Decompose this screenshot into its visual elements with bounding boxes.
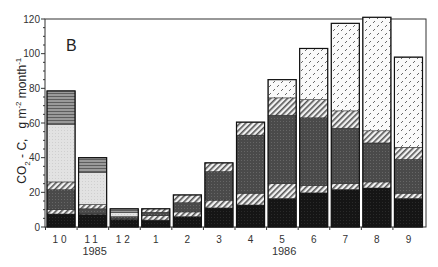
x-tick-label: 11: [84, 234, 100, 245]
bar-segment: [79, 209, 107, 214]
bar-segment: [300, 100, 328, 118]
bar-7: [331, 23, 359, 227]
x-tick-label: 10: [52, 234, 69, 245]
bar-segment: [79, 158, 107, 173]
bar-segment: [268, 80, 296, 98]
bar-segment: [394, 57, 422, 147]
bar-segment: [47, 210, 75, 214]
bar-segment: [205, 172, 233, 201]
bar-segment: [205, 163, 233, 172]
bar-segment: [47, 91, 75, 125]
y-tick-label: 120: [23, 14, 40, 25]
bar-2: [173, 195, 201, 227]
bar-3: [205, 163, 233, 227]
bar-4: [237, 122, 265, 227]
bar-segment: [300, 185, 328, 192]
bar-6: [300, 48, 328, 227]
bar-segment: [47, 214, 75, 227]
bar-segment: [268, 115, 296, 183]
bar-segment: [300, 118, 328, 186]
bar-segment: [394, 198, 422, 227]
bar-segment: [363, 17, 391, 131]
bar-segment: [110, 219, 138, 227]
bar-segment: [268, 184, 296, 199]
bar-segment: [300, 48, 328, 99]
bar-8: [363, 17, 391, 227]
y-axis-label: CO2 - C, g m-2 month-1: [14, 36, 31, 206]
bar-9: [394, 57, 422, 227]
panel-label: B: [66, 37, 77, 54]
bar-segment: [47, 190, 75, 210]
bar-segment: [173, 195, 201, 203]
y-tick-label: 0: [34, 222, 40, 233]
bar-segment: [110, 212, 138, 216]
bar-segment: [237, 193, 265, 205]
bar-segment: [47, 182, 75, 190]
x-tick-label: 5: [279, 234, 285, 245]
bar-segment: [237, 122, 265, 135]
bar-segment: [237, 205, 265, 227]
bar-segment: [363, 143, 391, 182]
bar-segment: [79, 172, 107, 204]
bar-segment: [47, 125, 75, 182]
x-tick-label: 3: [216, 234, 222, 245]
bar-segment: [363, 131, 391, 143]
bar-segment: [142, 220, 170, 227]
bar-1: [142, 209, 170, 227]
x-tick-label: 12: [116, 234, 133, 245]
bar-segment: [363, 188, 391, 227]
x-tick-label: 4: [248, 234, 254, 245]
x-tick-label: 6: [311, 234, 317, 245]
bar-segment: [394, 147, 422, 159]
bar-segment: [110, 217, 138, 219]
bar-segment: [205, 208, 233, 227]
bar-10: [47, 91, 75, 227]
bar-segment: [79, 215, 107, 227]
x-axis: 10111212345678919851986: [46, 227, 412, 257]
bar-segment: [331, 128, 359, 183]
bar-segment: [331, 189, 359, 227]
x-tick-label: 8: [374, 234, 380, 245]
year-label: 1986: [272, 245, 296, 257]
bar-segment: [142, 216, 170, 220]
bar-segment: [237, 135, 265, 193]
bar-segment: [363, 182, 391, 188]
bar-segment: [331, 111, 359, 128]
bar-segment: [268, 98, 296, 115]
bar-segment: [79, 204, 107, 208]
x-tick-label: 7: [343, 234, 349, 245]
bar-12: [110, 209, 138, 227]
bar-5: [268, 80, 296, 227]
year-label: 1985: [82, 245, 106, 257]
bar-segment: [173, 217, 201, 227]
bar-segment: [300, 193, 328, 227]
stacked-bar-chart: 020406080100120 10111212345678919851986 …: [0, 0, 438, 267]
bars: [47, 17, 423, 227]
bar-segment: [268, 198, 296, 227]
x-tick-label: 1: [153, 234, 159, 245]
bar-segment: [331, 184, 359, 190]
bar-segment: [394, 193, 422, 198]
x-tick-label: 2: [185, 234, 191, 245]
bar-segment: [205, 200, 233, 208]
bar-11: [79, 158, 107, 227]
bar-segment: [173, 212, 201, 217]
bar-segment: [173, 203, 201, 212]
bar-segment: [394, 159, 422, 193]
bar-segment: [142, 212, 170, 215]
bar-segment: [331, 23, 359, 111]
x-tick-label: 9: [406, 234, 412, 245]
